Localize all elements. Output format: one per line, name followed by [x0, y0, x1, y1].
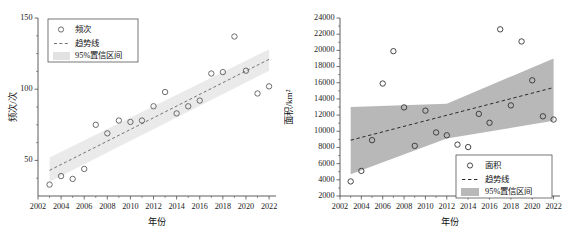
- x-tick-label: 2012: [439, 202, 455, 211]
- y-tick-label: 4000: [318, 175, 334, 184]
- legend-label-frequency: 频次: [75, 24, 92, 34]
- data-point: [93, 122, 98, 127]
- x-tick-label: 2012: [145, 202, 161, 211]
- frequency-chart-svg: 50100150 2002200420062008201020122014201…: [0, 0, 284, 243]
- data-point: [82, 166, 87, 171]
- x-tick-label: 2020: [238, 202, 254, 211]
- x-tick-label: 2006: [375, 202, 391, 211]
- data-point: [266, 84, 271, 89]
- data-point: [116, 118, 121, 123]
- x-tick-label: 2008: [99, 202, 115, 211]
- area-y-axis-title: 面积/km²: [284, 89, 294, 124]
- area-y-axis: 2000400060008000100001200014000160001800…: [314, 13, 340, 200]
- data-point: [209, 71, 214, 76]
- x-tick-label: 2014: [168, 202, 184, 211]
- x-tick-label: 2014: [460, 202, 476, 211]
- data-point: [232, 34, 237, 39]
- data-point: [519, 39, 524, 44]
- x-tick-label: 2010: [417, 202, 433, 211]
- data-point: [465, 144, 470, 149]
- frequency-x-axis: 2002200420062008201020122014201620182020…: [30, 196, 277, 211]
- legend-label-trendline: 趋势线: [75, 38, 100, 48]
- x-tick-label: 2002: [332, 202, 348, 211]
- y-tick-label: 14000: [314, 94, 334, 103]
- x-tick-label: 2022: [261, 202, 277, 211]
- y-tick-label: 22000: [314, 29, 334, 38]
- x-tick-label: 2008: [396, 202, 412, 211]
- data-point: [70, 176, 75, 181]
- legend-label-confidence-interval: 95%置信区间: [485, 186, 532, 196]
- x-tick-label: 2010: [122, 202, 138, 211]
- legend-label-trendline: 趋势线: [485, 174, 510, 184]
- area-chart-svg: 2000400060008000100001200014000160001800…: [284, 0, 568, 243]
- legend-label-confidence-interval: 95%置信区间: [75, 50, 122, 60]
- y-tick-label: 8000: [318, 142, 334, 151]
- y-tick-label: 18000: [314, 61, 334, 70]
- frequency-legend: 频次 趋势线 95%置信区间: [48, 19, 138, 62]
- data-point: [497, 27, 502, 32]
- x-tick-label: 2006: [76, 202, 92, 211]
- chart-panel-area: 2000400060008000100001200014000160001800…: [284, 0, 568, 243]
- x-tick-label: 2004: [53, 202, 69, 211]
- data-point: [47, 182, 52, 187]
- y-tick-label: 20000: [314, 45, 334, 54]
- frequency-x-axis-title: 年份: [148, 216, 166, 227]
- y-tick-label: 100: [20, 84, 32, 93]
- y-tick-label: 10000: [314, 126, 334, 135]
- data-point: [255, 91, 260, 96]
- frequency-y-axis-title: 频次/次: [7, 92, 18, 122]
- y-tick-label: 24000: [314, 13, 334, 22]
- area-x-axis-title: 年份: [441, 216, 459, 227]
- legend-marker-band-icon: [461, 188, 479, 196]
- data-point: [348, 179, 353, 184]
- y-tick-label: 6000: [318, 159, 334, 168]
- x-tick-label: 2018: [215, 202, 231, 211]
- area-legend: 面积 趋势线 95%置信区间: [456, 155, 552, 198]
- x-tick-label: 2016: [481, 202, 497, 211]
- legend-label-area: 面积: [485, 160, 502, 170]
- data-point: [391, 48, 396, 53]
- x-tick-label: 2002: [30, 202, 46, 211]
- x-tick-label: 2016: [192, 202, 208, 211]
- y-tick-label: 12000: [314, 110, 334, 119]
- dual-scatter-figure: 50100150 2002200420062008201020122014201…: [0, 0, 568, 243]
- y-tick-label: 16000: [314, 78, 334, 87]
- x-tick-label: 2022: [545, 202, 561, 211]
- y-tick-label: 150: [20, 13, 32, 22]
- y-tick-label: 2000: [318, 191, 334, 200]
- data-point: [162, 89, 167, 94]
- data-point: [380, 81, 385, 86]
- x-tick-label: 2004: [353, 202, 369, 211]
- frequency-y-axis: 50100150: [20, 13, 38, 196]
- x-tick-label: 2018: [503, 202, 519, 211]
- x-tick-label: 2020: [524, 202, 540, 211]
- legend-marker-band-icon: [53, 52, 70, 60]
- frequency-confidence-band: [50, 49, 270, 181]
- y-tick-label: 50: [24, 155, 32, 164]
- data-point: [455, 142, 460, 147]
- chart-panel-frequency: 50100150 2002200420062008201020122014201…: [0, 0, 284, 243]
